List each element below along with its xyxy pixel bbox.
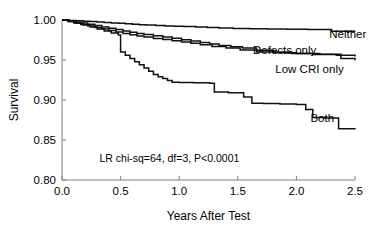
y-tick-label: 0.85	[34, 134, 56, 146]
survival-chart-figure: 0.800.850.900.951.00 0.00.51.01.52.02.5 …	[0, 0, 375, 232]
y-tick-label: 0.90	[34, 94, 56, 106]
y-axis-tick-labels: 0.800.850.900.951.00	[34, 14, 56, 186]
x-tick-label: 2.5	[347, 185, 363, 197]
statistics-annotation: LR chi-sq=64, df=3, P<0.0001	[100, 152, 240, 164]
survival-plot: 0.800.850.900.951.00 0.00.51.01.52.02.5 …	[0, 0, 375, 232]
y-tick-label: 0.80	[34, 174, 56, 186]
y-tick-label: 1.00	[34, 14, 56, 26]
x-axis-tick-labels: 0.00.51.01.52.02.5	[54, 185, 363, 197]
y-tick-label: 0.95	[34, 54, 56, 66]
x-tick-label: 1.5	[230, 185, 246, 197]
x-tick-label: 0.5	[113, 185, 129, 197]
series-label-defects-only: Defects only	[253, 44, 317, 56]
x-tick-label: 1.0	[171, 185, 187, 197]
series-label-both: Both	[310, 112, 334, 124]
series-label-neither: Neither	[329, 28, 366, 40]
y-axis-title: Survival	[7, 79, 21, 122]
x-tick-label: 0.0	[54, 185, 70, 197]
x-tick-label: 2.0	[288, 185, 304, 197]
series-label-low-cri-only: Low CRI only	[275, 63, 344, 75]
x-axis-title: Years After Test	[167, 209, 251, 223]
